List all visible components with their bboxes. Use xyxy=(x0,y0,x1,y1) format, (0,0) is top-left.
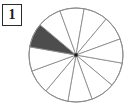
fraction-circle-figure: 1 xyxy=(0,0,129,109)
pie-center-dot xyxy=(74,53,77,56)
pie-chart-svg xyxy=(0,0,129,109)
